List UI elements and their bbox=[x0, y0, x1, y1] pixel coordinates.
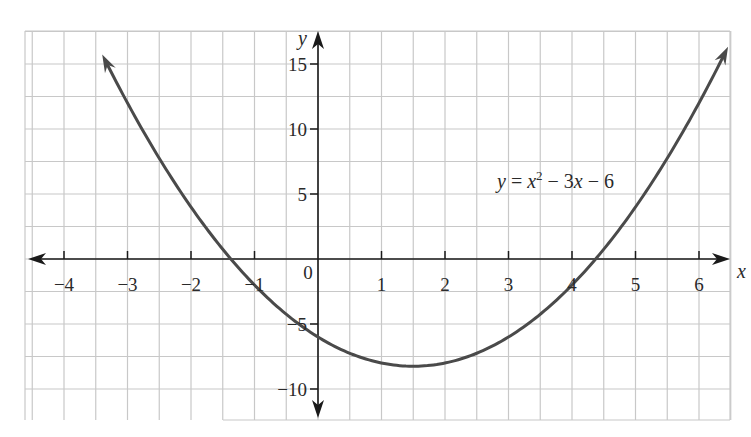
y-tick-label: 10 bbox=[288, 119, 307, 140]
x-tick-label: 0 bbox=[303, 262, 313, 283]
x-tick-label: 2 bbox=[440, 274, 450, 295]
x-axis-label: x bbox=[736, 260, 746, 282]
y-tick-label: −10 bbox=[277, 379, 307, 400]
x-tick-labels: −4−3−2−10123456 bbox=[54, 251, 704, 295]
x-tick-label: 4 bbox=[567, 274, 577, 295]
x-tick-label: −1 bbox=[244, 274, 264, 295]
x-tick-label: 3 bbox=[504, 274, 514, 295]
y-tick-label: −5 bbox=[287, 314, 307, 335]
parabola-chart: −4−3−2−10123456 15105−5−10 x y y = x2 − … bbox=[0, 0, 751, 437]
x-tick-label: 5 bbox=[631, 274, 641, 295]
parabola-curve bbox=[107, 57, 723, 367]
x-tick-label: −4 bbox=[54, 274, 75, 295]
y-tick-label: 15 bbox=[288, 54, 307, 75]
y-tick-label: 5 bbox=[298, 184, 308, 205]
y-axis-label: y bbox=[296, 27, 307, 50]
x-tick-label: 1 bbox=[377, 274, 387, 295]
x-tick-label: −3 bbox=[117, 274, 137, 295]
x-tick-label: −2 bbox=[181, 274, 201, 295]
x-tick-label: 6 bbox=[694, 274, 704, 295]
equation-label: y = x2 − 3x − 6 bbox=[495, 168, 614, 193]
curve-arrowheads bbox=[102, 47, 728, 73]
